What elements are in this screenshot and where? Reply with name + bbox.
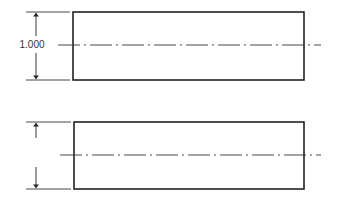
dimension-label: 1.000 <box>19 39 44 50</box>
technical-drawing: 1.000 <box>0 0 339 201</box>
top-part-outline <box>73 12 304 80</box>
top-view: 1.000 <box>14 12 321 80</box>
bottom-view <box>26 122 321 189</box>
bottom-part-outline <box>74 122 304 189</box>
